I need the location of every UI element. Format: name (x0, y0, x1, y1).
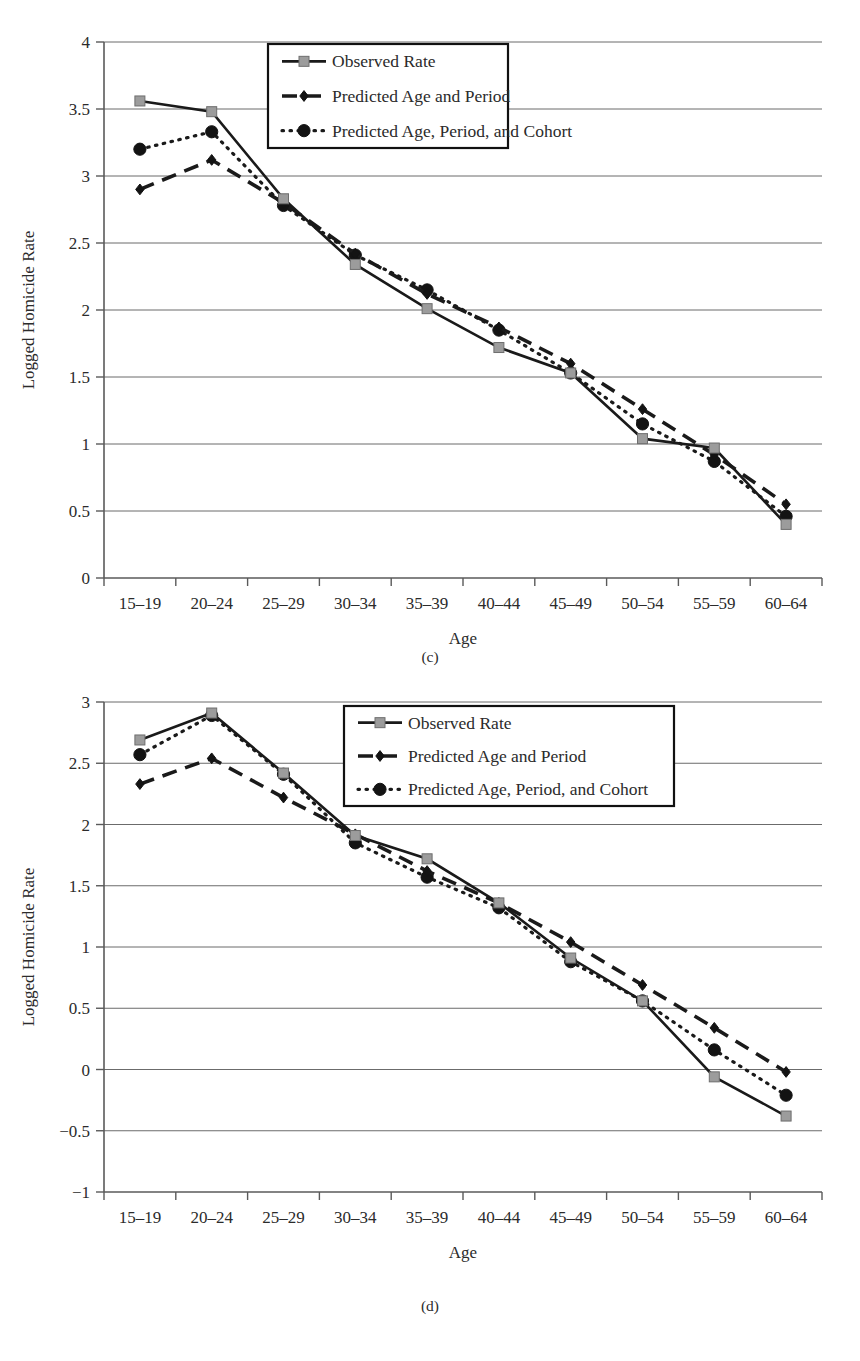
y-axis-tick-label: 1.5 (69, 877, 90, 896)
series-line (140, 160, 786, 504)
data-point-marker-square (709, 443, 719, 453)
line-chart-c: 00.511.522.533.5415–1920–2425–2930–3435–… (0, 0, 860, 680)
data-point-marker-square (566, 368, 576, 378)
legend-item-label: Predicted Age and Period (408, 746, 587, 766)
data-point-marker-circle (708, 1044, 720, 1056)
x-axis-tick-label: 60–64 (765, 594, 808, 613)
data-point-marker-square (207, 708, 217, 718)
data-point-marker-square (279, 194, 289, 204)
legend: Observed RatePredicted Age and PeriodPre… (268, 44, 572, 148)
x-axis-tick-label: 55–59 (693, 594, 736, 613)
data-point-marker-circle (134, 143, 146, 155)
legend-item-label: Observed Rate (408, 713, 512, 733)
line-chart-d: −1−0.500.511.522.5315–1920–2425–2930–343… (0, 672, 860, 1312)
x-axis-tick-label: 55–59 (693, 1208, 736, 1227)
y-axis-tick-label: 0 (82, 569, 91, 588)
series-group (135, 96, 791, 529)
data-point-marker-square (375, 718, 385, 728)
y-axis-tick-label: 2.5 (69, 754, 90, 773)
x-axis-tick-label: 35–39 (406, 1208, 449, 1227)
data-point-marker-square (781, 519, 791, 529)
y-axis-title: Logged Homicide Rate (19, 868, 38, 1027)
legend-item-label: Predicted Age and Period (332, 86, 511, 106)
chart-panel-c: 00.511.522.533.5415–1920–2425–2930–3435–… (0, 0, 860, 680)
data-point-marker-circle (206, 126, 218, 138)
x-axis-tick-label: 20–24 (190, 594, 233, 613)
data-point-marker-square (709, 1072, 719, 1082)
x-axis-tick-label: 45–49 (549, 594, 592, 613)
y-axis-tick-label: −0.5 (59, 1122, 90, 1141)
x-axis-tick-label: 15–19 (119, 1208, 162, 1227)
data-point-marker-square (135, 96, 145, 106)
series-group (136, 155, 791, 510)
data-point-marker-square (350, 259, 360, 269)
series-line (140, 132, 786, 517)
y-axis-tick-label: 4 (82, 33, 91, 52)
x-axis-tick-label: 25–29 (262, 1208, 305, 1227)
y-axis-tick-label: 1 (82, 435, 91, 454)
data-point-marker-square (781, 1111, 791, 1121)
data-point-marker-square (566, 953, 576, 963)
data-point-marker-circle (636, 418, 648, 430)
data-point-marker-square (135, 735, 145, 745)
data-point-marker-circle (780, 1089, 792, 1101)
chart-panel-d: −1−0.500.511.522.5315–1920–2425–2930–343… (0, 672, 860, 1361)
x-axis-tick-label: 40–44 (478, 594, 521, 613)
y-axis-tick-label: 3.5 (69, 100, 90, 119)
x-axis-tick-label: 60–64 (765, 1208, 808, 1227)
data-point-marker-square (638, 996, 648, 1006)
data-point-marker-circle (374, 783, 386, 795)
figure-container: 00.511.522.533.5415–1920–2425–2930–3435–… (0, 0, 860, 1361)
y-axis-tick-label: 2.5 (69, 234, 90, 253)
y-axis-title: Logged Homicide Rate (19, 231, 38, 390)
data-point-marker-square (422, 304, 432, 314)
legend-item-label: Predicted Age, Period, and Cohort (408, 779, 648, 799)
legend-item-label: Observed Rate (332, 51, 436, 71)
data-point-marker-diamond (207, 753, 215, 764)
data-point-marker-square (279, 768, 289, 778)
x-axis-tick-label: 50–54 (621, 1208, 664, 1227)
data-point-marker-square (638, 434, 648, 444)
x-axis-tick-label: 50–54 (621, 594, 664, 613)
series-group (134, 126, 792, 523)
data-point-marker-diamond (279, 792, 287, 803)
x-axis-tick-label: 20–24 (190, 1208, 233, 1227)
x-axis-tick-label: 15–19 (119, 594, 162, 613)
data-point-marker-square (422, 854, 432, 864)
x-axis-tick-label: 45–49 (549, 1208, 592, 1227)
x-axis-tick-label: 30–34 (334, 594, 377, 613)
legend-item-label: Predicted Age, Period, and Cohort (332, 121, 572, 141)
series-line (140, 101, 786, 524)
y-axis-tick-label: 3 (82, 693, 91, 712)
x-axis-tick-label: 30–34 (334, 1208, 377, 1227)
panel-caption-d: (d) (0, 1297, 860, 1315)
data-point-marker-square (299, 56, 309, 66)
x-axis-tick-label: 25–29 (262, 594, 305, 613)
data-point-marker-square (207, 107, 217, 117)
data-point-marker-circle (298, 125, 310, 137)
y-axis-tick-label: 2 (82, 301, 91, 320)
x-axis-tick-label: 35–39 (406, 594, 449, 613)
y-axis-tick-label: 3 (82, 167, 91, 186)
data-point-marker-square (494, 343, 504, 353)
y-axis-tick-label: 0.5 (69, 502, 90, 521)
data-point-marker-square (494, 898, 504, 908)
y-axis-tick-label: 0 (82, 1061, 91, 1080)
panel-caption-c: (c) (0, 648, 860, 666)
x-axis-title: Age (449, 1243, 477, 1262)
y-axis-tick-label: 0.5 (69, 999, 90, 1018)
y-axis-tick-label: 1 (82, 938, 91, 957)
data-point-marker-square (350, 831, 360, 841)
x-axis-title: Age (449, 629, 477, 648)
legend: Observed RatePredicted Age and PeriodPre… (344, 706, 674, 806)
y-axis-tick-label: −1 (72, 1183, 90, 1202)
data-point-marker-diamond (136, 779, 144, 790)
data-point-marker-circle (134, 749, 146, 761)
y-axis-tick-label: 1.5 (69, 368, 90, 387)
x-axis-tick-label: 40–44 (478, 1208, 521, 1227)
data-point-marker-diamond (136, 184, 144, 195)
y-axis-tick-label: 2 (82, 816, 91, 835)
data-point-marker-diamond (782, 499, 790, 510)
